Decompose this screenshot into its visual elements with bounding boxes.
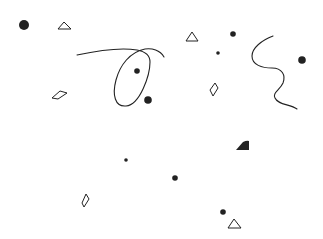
dot-top-right-a (230, 31, 236, 37)
quad-left (52, 91, 67, 99)
dot-center-small (124, 158, 128, 162)
dot-large-top-left (19, 20, 29, 30)
dot-below-loop (144, 96, 152, 104)
triangle-top-left (58, 22, 71, 29)
dot-inside-loop (134, 68, 140, 74)
quad-right (210, 83, 218, 96)
dot-top-right-small (216, 51, 220, 55)
dot-center (172, 175, 178, 181)
dot-bottom-right (220, 209, 226, 215)
wavy-curve (252, 36, 297, 109)
sketch-canvas (0, 0, 323, 239)
filled-wedge (236, 141, 249, 150)
quad-bottom-left (82, 194, 89, 207)
triangle-bottom-right (228, 219, 241, 228)
shapes-drawing (0, 0, 323, 239)
loop-curve (77, 49, 164, 106)
dot-right-edge (298, 56, 306, 64)
triangle-top-right (186, 32, 198, 41)
